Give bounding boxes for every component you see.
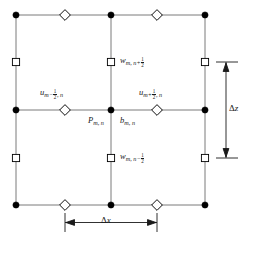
u-point-marker [152,200,163,211]
w-point-marker [201,154,208,161]
delta-z-arrowhead-down [223,149,229,158]
w-top-label: wm, n+12 [120,56,145,68]
delta-z-label: Δz [229,103,238,113]
u-right-point-marker [152,105,163,116]
node-marker [202,12,208,18]
w-top-point-marker [107,58,114,65]
w-point-marker [201,58,208,65]
p-center-label: Pm, n [88,116,104,126]
u-left-label: um−12, n [40,88,63,100]
delta-x-arrowhead-left [66,220,75,226]
u-point-marker [152,10,163,21]
node-marker [202,202,208,208]
u-right-label: um+12, n [139,88,162,100]
node-marker [108,12,114,18]
node-marker [13,107,19,113]
delta-z-arrowhead-up [223,63,229,72]
delta-x-dimension-arrow [65,213,157,232]
w-bottom-label: wm, n−12 [120,152,145,164]
grid-canvas [0,0,254,253]
u-left-point-marker [60,105,71,116]
node-marker [13,12,19,18]
u-point-marker [60,10,71,21]
w-bottom-point-marker [107,154,114,161]
node-marker [13,202,19,208]
delta-x-label: Δx [101,215,111,225]
staggered-grid-diagram: um−12, n um+12, n wm, n+12 wm, n−12 Pm, … [0,0,254,253]
p-b-point-marker [108,107,114,113]
node-marker [202,107,208,113]
delta-x-arrowhead-right [148,220,157,226]
b-center-label: bm, n [120,116,135,126]
w-point-marker [12,154,19,161]
u-point-marker [60,200,71,211]
w-point-marker [12,58,19,65]
node-marker [108,202,114,208]
